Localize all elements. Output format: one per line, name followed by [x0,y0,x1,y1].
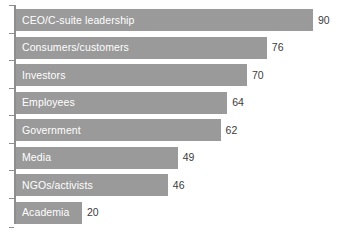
bar-value-label: 90 [318,15,330,26]
plot-area: CEO/C-suite leadership90Consumers/custom… [16,0,345,236]
bar-row: Employees64 [16,92,244,114]
bar-row: Media49 [16,147,194,169]
axis-tick [9,143,14,144]
axis-tick [9,115,14,116]
bar-row: NGOs/activists46 [16,174,184,196]
bar: Academia [16,202,82,224]
bar-chart: CEO/C-suite leadership90Consumers/custom… [0,0,345,236]
bar-value-label: 76 [272,42,284,53]
axis-tick [9,33,14,34]
bar-category-label: CEO/C-suite leadership [22,15,135,26]
bar-row: CEO/C-suite leadership90 [16,9,330,31]
bar-category-label: Consumers/customers [22,42,129,53]
bar-category-label: NGOs/activists [22,180,93,191]
bar-category-label: Government [22,125,81,136]
bar-category-label: Employees [22,97,75,108]
bar-row: Academia20 [16,202,99,224]
bar: Investors [16,64,247,86]
bar-value-label: 49 [183,152,195,163]
bar-category-label: Academia [22,207,70,218]
bar: Media [16,147,178,169]
axis-tick [9,227,14,228]
axis-tick [9,198,14,199]
bar-row: Government62 [16,119,237,141]
bar-row: Consumers/customers76 [16,37,283,59]
bar-row: Investors70 [16,64,264,86]
bar-value-label: 20 [87,207,99,218]
bar: Government [16,119,221,141]
bar-value-label: 46 [173,180,185,191]
bar-category-label: Investors [22,70,66,81]
axis-tick [9,170,14,171]
axis-tick [9,88,14,89]
axis-tick [9,5,14,6]
bar: Employees [16,92,227,114]
bar: NGOs/activists [16,174,168,196]
bar-value-label: 70 [252,70,264,81]
bar-category-label: Media [22,152,51,163]
axis-tick [9,60,14,61]
bar-value-label: 64 [232,97,244,108]
bar: Consumers/customers [16,37,267,59]
bar-value-label: 62 [226,125,238,136]
bar: CEO/C-suite leadership [16,9,313,31]
